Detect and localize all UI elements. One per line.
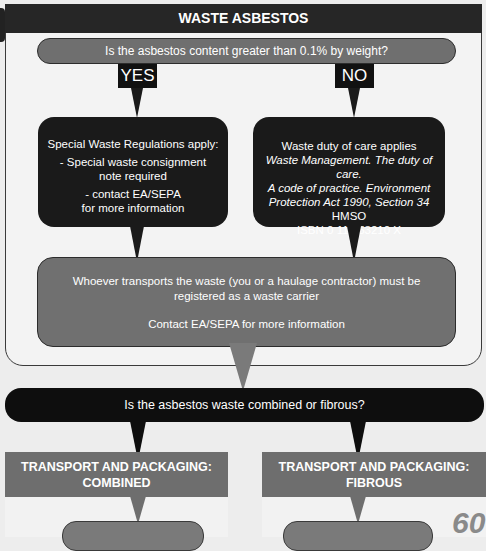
combined-header-line2: COMBINED <box>5 475 228 491</box>
duty-of-care-box: Waste duty of care applies Waste Managem… <box>253 117 445 227</box>
contact-line2: for more information <box>82 202 185 214</box>
carrier-contact: Contact EA/SEPA for more information <box>38 317 455 332</box>
hmso-label: HMSO <box>332 210 367 222</box>
fibrous-header-line1: TRANSPORT AND PACKAGING: <box>262 459 486 475</box>
page-number: 60 <box>452 508 485 538</box>
arrow-fibrous-sub-icon <box>350 496 366 524</box>
question-combined-or-fibrous: Is the asbestos waste combined or fibrou… <box>5 388 484 422</box>
duty-of-care-heading: Waste duty of care applies <box>253 139 445 153</box>
reference-line1: Waste Management. The duty of care. <box>253 153 445 181</box>
fibrous-section-header: TRANSPORT AND PACKAGING: FIBROUS <box>262 452 486 497</box>
arrow-yes-down-icon <box>131 88 143 118</box>
yes-label: YES <box>118 64 157 88</box>
combined-detail-box <box>62 521 204 551</box>
arrow-carrier-down-icon <box>229 343 257 391</box>
waste-carrier-box: Whoever transports the waste (you or a h… <box>37 257 456 347</box>
consignment-line2: note required <box>99 170 167 182</box>
combined-header-line1: TRANSPORT AND PACKAGING: <box>5 459 228 475</box>
fibrous-header-line2: FIBROUS <box>262 475 486 491</box>
question-content-threshold: Is the asbestos content greater than 0.1… <box>37 38 456 64</box>
consignment-line1: - Special waste consignment <box>60 156 206 168</box>
special-waste-heading: Special Waste Regulations apply: <box>38 137 228 151</box>
act-reference: Protection Act 1990, Section 34 <box>269 196 430 208</box>
consignment-note-text: - Special waste consignment note require… <box>38 155 228 183</box>
fibrous-detail-box <box>283 521 433 551</box>
contact-text: - contact EA/SEPA for more information <box>38 187 228 215</box>
arrow-no-down-icon <box>348 88 360 118</box>
special-waste-box: Special Waste Regulations apply: - Speci… <box>38 117 228 227</box>
combined-section-header: TRANSPORT AND PACKAGING: COMBINED <box>5 452 228 497</box>
carrier-line2: registered as a waste carrier <box>38 289 455 304</box>
carrier-line1: Whoever transports the waste (you or a h… <box>38 274 455 289</box>
contact-line1: - contact EA/SEPA <box>85 188 181 200</box>
page-title: WASTE ASBESTOS <box>5 4 482 33</box>
no-label: NO <box>335 64 374 88</box>
arrow-combined-sub-icon <box>130 496 146 524</box>
reference-line3: Protection Act 1990, Section 34 HMSO <box>253 195 445 223</box>
reference-line2: A code of practice. Environment <box>253 181 445 195</box>
title-bar: WASTE ASBESTOS <box>5 4 482 33</box>
